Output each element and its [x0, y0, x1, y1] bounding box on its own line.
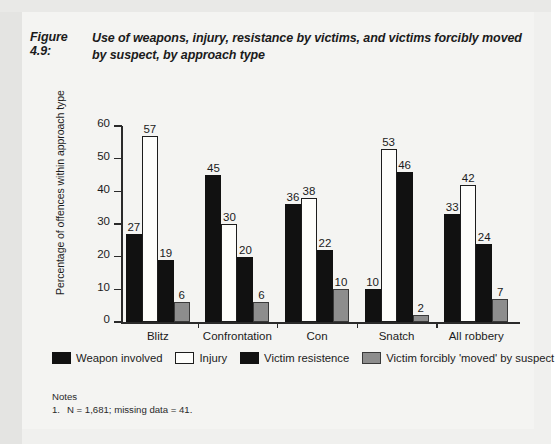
legend-label: Injury	[199, 352, 227, 364]
y-tick-label: 30	[97, 215, 110, 227]
y-tick-label: 50	[97, 150, 110, 162]
bar-chart: Percentage of offences within approach t…	[56, 90, 526, 340]
figure-sheet: Figure 4.9: Use of weapons, injury, resi…	[22, 12, 534, 429]
y-tick-40: 40	[114, 191, 122, 192]
bar[interactable]: 53	[381, 149, 397, 322]
y-tick-30: 30	[114, 223, 122, 224]
bar[interactable]: 20	[237, 257, 253, 322]
bar-value-label: 6	[179, 289, 185, 301]
bar[interactable]: 27	[126, 234, 142, 322]
bar-value-label: 30	[223, 211, 236, 223]
notes-heading: Notes	[52, 390, 192, 403]
x-group-separator-tick	[198, 323, 199, 328]
figure-number: Figure 4.9:	[30, 30, 92, 58]
bar-value-label: 36	[287, 191, 300, 203]
x-tick-label: All robbery	[449, 330, 504, 342]
legend-swatch	[240, 352, 259, 364]
y-tick-20: 20	[114, 256, 122, 257]
figure-title-block: Figure 4.9: Use of weapons, injury, resi…	[30, 30, 522, 64]
y-tick-label: 10	[97, 281, 110, 293]
bar-value-label: 2	[417, 302, 423, 314]
bar-value-label: 45	[207, 162, 220, 174]
bar[interactable]: 36	[285, 204, 301, 322]
bar-value-label: 7	[497, 286, 503, 298]
x-tick-label: Blitz	[147, 330, 169, 342]
bar[interactable]: 42	[460, 185, 476, 322]
bar-value-label: 53	[382, 136, 395, 148]
note-item: 1.N = 1,681; missing data = 41.	[52, 403, 192, 416]
legend-item[interactable]: Weapon involved	[52, 352, 175, 364]
y-tick-0: 0	[114, 321, 122, 322]
legend-swatch	[175, 352, 194, 364]
x-tick-label: Snatch	[379, 330, 415, 342]
bar-value-label: 38	[303, 185, 316, 197]
bar-value-label: 22	[319, 237, 332, 249]
x-group-separator-tick	[436, 323, 437, 328]
legend-label: Weapon involved	[76, 352, 162, 364]
y-tick-mark	[114, 321, 122, 322]
bar[interactable]: 46	[397, 172, 413, 322]
legend-item[interactable]: Injury	[175, 352, 240, 364]
y-tick-mark	[114, 256, 122, 257]
y-tick-mark	[114, 158, 122, 159]
y-tick-label: 0	[104, 313, 110, 325]
x-axis-line	[121, 322, 520, 324]
y-tick-mark	[114, 125, 122, 126]
y-axis-label: Percentage of offences within approach t…	[54, 95, 70, 295]
bar[interactable]: 33	[444, 214, 460, 322]
bar-value-label: 10	[366, 276, 379, 288]
y-tick-label: 20	[97, 248, 110, 260]
y-tick-10: 10	[114, 289, 122, 290]
bar[interactable]: 2	[413, 315, 429, 322]
bar[interactable]: 6	[253, 302, 269, 322]
y-tick-label: 60	[97, 117, 110, 129]
bar-value-label: 42	[462, 172, 475, 184]
bar-value-label: 20	[239, 244, 252, 256]
bar[interactable]: 6	[174, 302, 190, 322]
bar-value-label: 24	[478, 231, 491, 243]
x-tick-label: Con	[306, 330, 327, 342]
bar[interactable]: 7	[492, 299, 508, 322]
bar-group: 2757196	[126, 126, 190, 322]
y-tick-mark	[114, 289, 122, 290]
bar[interactable]: 24	[476, 244, 492, 322]
legend-label: Victim resistence	[264, 352, 349, 364]
bar[interactable]: 57	[142, 136, 158, 322]
x-group-separator-tick	[357, 323, 358, 328]
bar[interactable]: 38	[301, 198, 317, 322]
legend-label: Victim forcibly 'moved' by suspect	[386, 352, 554, 364]
y-tick-60: 60	[114, 125, 122, 126]
y-tick-mark	[114, 223, 122, 224]
bar-value-label: 57	[143, 123, 156, 135]
x-tick-label: Confrontation	[203, 330, 272, 342]
x-group-separator-tick	[277, 323, 278, 328]
note-text: N = 1,681; missing data = 41.	[67, 403, 192, 416]
notes-list: 1.N = 1,681; missing data = 41.	[52, 403, 192, 416]
legend-swatch	[362, 352, 381, 364]
bar-group: 36382210	[285, 126, 349, 322]
legend-item[interactable]: Victim forcibly 'moved' by suspect	[362, 352, 559, 364]
bar-value-label: 33	[446, 201, 459, 213]
y-tick-mark	[114, 191, 122, 192]
bar-group: 1053462	[365, 126, 429, 322]
figure-caption: Use of weapons, injury, resistance by vi…	[92, 30, 522, 64]
bar-value-label: 46	[398, 159, 411, 171]
bar[interactable]: 10	[365, 289, 381, 322]
bar[interactable]: 19	[158, 260, 174, 322]
bar[interactable]: 30	[221, 224, 237, 322]
note-number: 1.	[52, 403, 67, 416]
legend-item[interactable]: Victim resistence	[240, 352, 362, 364]
bar[interactable]: 22	[317, 250, 333, 322]
bar-value-label: 19	[159, 247, 172, 259]
chart-legend: Weapon involvedInjuryVictim resistenceVi…	[52, 352, 532, 364]
notes-block: Notes 1.N = 1,681; missing data = 41.	[52, 390, 192, 416]
bar-value-label: 10	[335, 276, 348, 288]
bar[interactable]: 10	[333, 289, 349, 322]
bar-group: 4530206	[205, 126, 269, 322]
y-tick-label: 40	[97, 183, 110, 195]
bar[interactable]: 45	[205, 175, 221, 322]
y-tick-50: 50	[114, 158, 122, 159]
bar-value-label: 6	[258, 289, 264, 301]
legend-swatch	[52, 352, 71, 364]
